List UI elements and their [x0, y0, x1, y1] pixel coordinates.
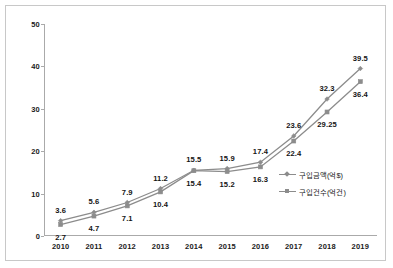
x-axis-tick-label: 2011 [85, 242, 102, 251]
series-marker [325, 110, 329, 114]
data-label: 7.9 [122, 187, 133, 196]
x-axis-tick-label: 2012 [119, 242, 137, 251]
data-label: 22.4 [286, 149, 301, 158]
x-axis-tick-label: 2013 [152, 242, 170, 251]
y-axis-tick-mark [41, 236, 44, 237]
data-label: 16.3 [253, 174, 268, 183]
legend-label: 구입건수(억건) [299, 186, 346, 197]
legend-item-1[interactable]: 구입건수(억건) [279, 183, 375, 200]
data-label: 15.2 [220, 179, 235, 188]
legend-label: 구입금액(억$) [299, 169, 343, 180]
series-line [61, 82, 361, 225]
data-label: 15.5 [186, 155, 201, 164]
series-marker [192, 169, 196, 173]
chart-legend: 구입금액(억$) 구입건수(억건) [279, 166, 375, 200]
data-label: 15.4 [186, 178, 201, 187]
data-label: 10.4 [153, 199, 168, 208]
data-label: 23.6 [286, 120, 301, 129]
y-axis-tick-label: 40 [31, 62, 40, 71]
y-axis-tick-label: 10 [31, 189, 40, 198]
data-label: 7.1 [122, 213, 133, 222]
legend-marker-diamond-icon [279, 170, 296, 179]
data-label: 36.4 [353, 89, 368, 98]
x-axis-tick-label: 2010 [52, 242, 70, 251]
series-marker [92, 214, 96, 218]
data-label: 32.3 [319, 84, 334, 93]
data-label: 5.6 [89, 197, 100, 206]
series-marker [292, 139, 296, 143]
x-axis-tick-label: 2017 [285, 242, 303, 251]
chart-frame: 01020304050 2010201120122013201420152016… [5, 5, 386, 261]
x-axis-tick-label: 2019 [352, 242, 370, 251]
data-label: 39.5 [353, 53, 368, 62]
data-label: 3.6 [55, 205, 66, 214]
data-label: 2.7 [55, 232, 66, 241]
y-axis-tick-label: 50 [31, 20, 40, 29]
series-marker [258, 165, 262, 169]
x-axis-tick-label: 2016 [252, 242, 270, 251]
data-label: 4.7 [89, 224, 100, 233]
data-label: 15.9 [220, 153, 235, 162]
y-axis-tick-label: 20 [31, 147, 40, 156]
data-label: 17.4 [253, 147, 268, 156]
y-axis-tick-label: 30 [31, 104, 40, 113]
series-marker [159, 190, 163, 194]
series-marker [59, 223, 63, 227]
x-axis-tick-label: 2014 [185, 242, 203, 251]
legend-marker-square-icon [279, 187, 296, 196]
y-axis-tick-label: 0 [36, 232, 40, 241]
legend-item-0[interactable]: 구입금액(억$) [279, 166, 375, 183]
data-label: 11.2 [153, 173, 168, 182]
plot-area: 01020304050 2010201120122013201420152016… [44, 24, 377, 236]
data-label: 29.25 [317, 119, 337, 128]
series-marker [358, 80, 362, 84]
x-axis-tick-label: 2018 [318, 242, 336, 251]
x-axis-tick-label: 2015 [218, 242, 236, 251]
series-marker [225, 170, 229, 174]
series-marker [125, 204, 129, 208]
